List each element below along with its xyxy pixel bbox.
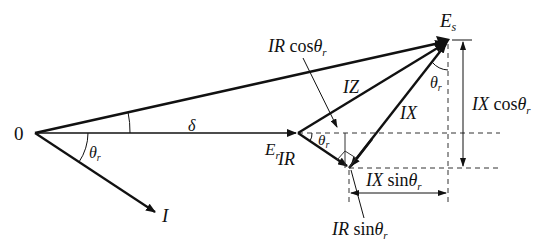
delta-label: δ — [188, 117, 196, 134]
theta-r-er-arc — [310, 133, 312, 141]
theta-r-es-label: θr — [430, 74, 442, 93]
theta-r-origin-label: θr — [89, 144, 101, 163]
es-label: Es — [439, 10, 457, 34]
origin-label: 0 — [14, 123, 24, 144]
theta-r-es-arc — [432, 62, 448, 70]
ir-cos-label: IR cosθr — [267, 36, 327, 58]
ix-sin-label: IX sinθr — [365, 170, 422, 192]
ir-sin-label: IR sinθr — [331, 219, 388, 241]
theta-r-origin-arc — [79, 133, 88, 162]
ir-sin-leader — [351, 170, 364, 218]
theta-r-er-label: θr — [318, 132, 329, 150]
current-label: I — [161, 205, 170, 226]
phasor-diagram: 0 Es Er I IZ IX IR δ θr θr θr IR cosθr I… — [0, 0, 542, 251]
ix-phasor-lower-arrow — [351, 139, 372, 166]
ir-label: IR — [277, 149, 295, 169]
phasor-svg: 0 Es Er I IZ IX IR δ θr θr θr IR cosθr I… — [0, 0, 542, 251]
iz-label: IZ — [342, 77, 360, 97]
ix-cos-label: IX cosθr — [471, 94, 531, 116]
es-phasor — [35, 42, 444, 133]
ix-label: IX — [399, 103, 418, 123]
delta-arc — [128, 112, 130, 133]
